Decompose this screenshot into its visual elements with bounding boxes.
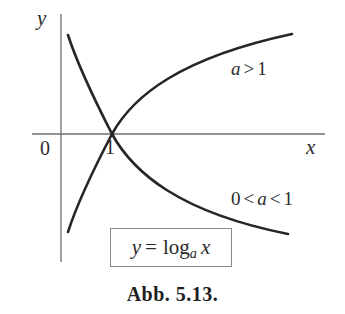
- origin-tick-label: 0: [40, 138, 50, 158]
- curve-label-operator-right: <: [267, 188, 284, 209]
- curve-label-operator: >: [241, 58, 258, 79]
- x-axis-label: x: [306, 137, 315, 158]
- curve-label-a-between-0-and-1: 0<a<1: [231, 189, 293, 208]
- formula-log-base: a: [190, 245, 197, 261]
- curve-label-a-greater-than-1: a>1: [231, 59, 267, 78]
- formula-box: y=logax: [110, 228, 232, 267]
- formula-argument: x: [197, 235, 210, 259]
- curve-label-operator-left: <: [241, 188, 258, 209]
- formula-equals-sign: =: [141, 235, 161, 259]
- formula-log-operator: log: [161, 235, 190, 259]
- figure-caption: Abb. 5.13.: [0, 283, 345, 306]
- curve-label-value: 1: [257, 58, 267, 79]
- formula-text: y=logax: [132, 237, 210, 258]
- y-axis-label: y: [37, 8, 46, 29]
- curve-label-lower-bound: 0: [231, 188, 241, 209]
- curve-label-variable: a: [231, 58, 241, 79]
- x-tick-label-one: 1: [105, 137, 115, 157]
- formula-y-variable: y: [132, 235, 141, 259]
- curve-label-upper-bound: 1: [283, 188, 293, 209]
- figure-container: y x 0 1 a>1 0<a<1 y=logax Abb. 5.13.: [0, 0, 345, 314]
- curve-label-variable: a: [257, 188, 267, 209]
